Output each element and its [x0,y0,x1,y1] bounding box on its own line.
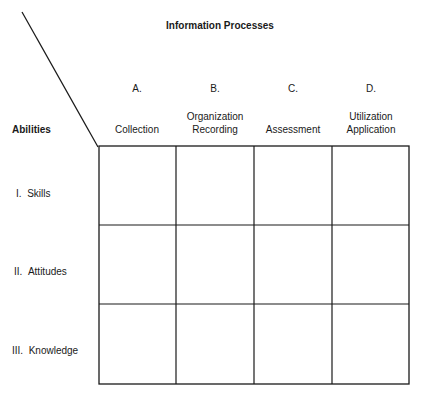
column-letter-c: C. [254,83,332,94]
row-axis-label: Abilities [12,124,51,135]
column-label-b: Organization Recording [176,110,254,136]
column-label-a: Collection [98,110,176,136]
matrix-grid [0,0,423,395]
row-label-knowledge: III. Knowledge [12,345,78,356]
column-letter-d: D. [332,83,410,94]
column-label-c: Assessment [254,110,332,136]
diagram-title: Information Processes [100,20,340,31]
row-label-skills: I. Skills [16,188,50,199]
column-letter-b: B. [176,83,254,94]
column-label-d: Utilization Application [332,110,410,136]
row-label-attitudes: II. Attitudes [14,266,67,277]
column-letter-a: A. [98,83,176,94]
